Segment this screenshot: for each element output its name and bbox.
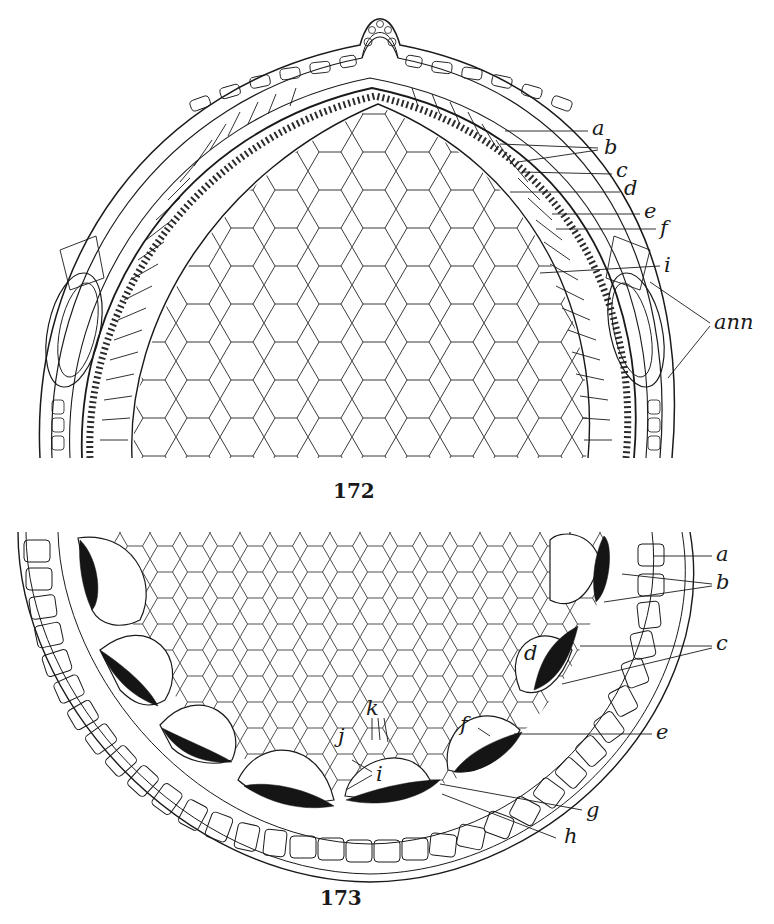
figure-172 bbox=[37, 19, 675, 458]
fig173-label-h: h bbox=[564, 826, 578, 847]
figure-number-172: 172 bbox=[333, 479, 375, 503]
fig172-label-d: d bbox=[624, 178, 637, 199]
fig173-label-c: c bbox=[716, 633, 728, 654]
figure-173 bbox=[18, 532, 694, 882]
fig172-label-e: e bbox=[644, 201, 656, 222]
fig173-label-j: j bbox=[338, 726, 345, 747]
fig172-label-ann: ann bbox=[714, 312, 754, 333]
fig173-label-g: g bbox=[586, 800, 599, 821]
fig173-label-e: e bbox=[656, 722, 668, 743]
fig173-label-b: b bbox=[716, 572, 729, 593]
fig173-label-f: f bbox=[460, 714, 468, 735]
figure-172-drawing bbox=[0, 0, 774, 924]
fig173-label-a: a bbox=[716, 544, 729, 565]
fig172-label-b: b bbox=[604, 137, 617, 158]
fig172-label-i: i bbox=[664, 255, 671, 276]
fig172-label-a: a bbox=[592, 118, 605, 139]
fig173-label-i: i bbox=[376, 764, 383, 785]
fig172-label-f: f bbox=[660, 218, 668, 239]
fig173-label-k: k bbox=[366, 698, 379, 719]
fig173-label-d: d bbox=[524, 643, 537, 664]
figure-number-173: 173 bbox=[320, 886, 362, 910]
